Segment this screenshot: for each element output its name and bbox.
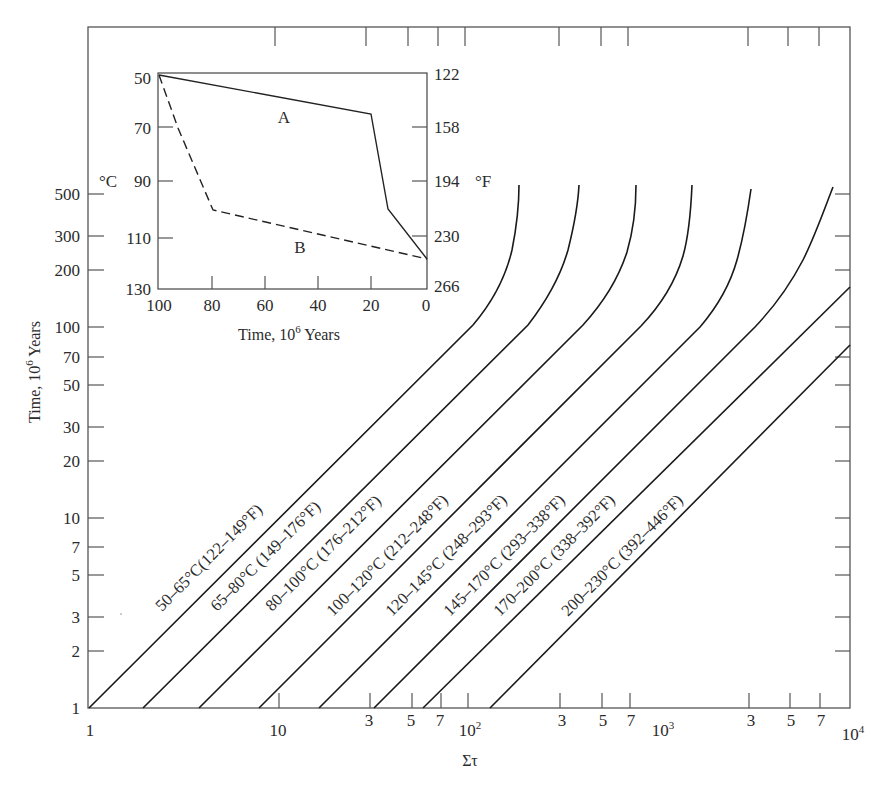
chart-canvas: 50–65°C(122–149°F) 65–80°C (149–176°F) 8… xyxy=(0,0,883,789)
svg-text:20: 20 xyxy=(63,452,80,471)
svg-text:3: 3 xyxy=(747,711,756,730)
svg-text:70: 70 xyxy=(63,348,80,367)
svg-text:50: 50 xyxy=(134,69,151,88)
svg-text:7: 7 xyxy=(627,711,636,730)
curve-145-170C xyxy=(374,187,833,708)
svg-text:60: 60 xyxy=(257,296,274,315)
svg-text:104: 104 xyxy=(842,723,865,744)
svg-text:194: 194 xyxy=(434,172,460,191)
curve-170-200C xyxy=(423,287,850,708)
svg-text:300: 300 xyxy=(55,227,81,246)
svg-text:7: 7 xyxy=(436,711,445,730)
svg-text:70: 70 xyxy=(134,119,151,138)
svg-text:90: 90 xyxy=(134,172,151,191)
svg-text:80: 80 xyxy=(204,296,221,315)
inset-label-a: A xyxy=(278,108,291,127)
svg-text:122: 122 xyxy=(434,65,460,84)
svg-text:7: 7 xyxy=(817,711,826,730)
svg-text:3: 3 xyxy=(365,711,374,730)
svg-text:110: 110 xyxy=(126,229,151,248)
svg-text:20: 20 xyxy=(363,296,380,315)
svg-text:5: 5 xyxy=(599,711,608,730)
svg-text:5: 5 xyxy=(787,711,796,730)
svg-text:500: 500 xyxy=(55,185,81,204)
svg-text:10: 10 xyxy=(270,721,287,740)
svg-text:50: 50 xyxy=(63,376,80,395)
inset-right-unit: °F xyxy=(475,172,491,191)
svg-text:100: 100 xyxy=(146,296,172,315)
x-axis-title: Στ xyxy=(462,752,478,769)
y-axis-title: Time, 106 Years xyxy=(23,321,43,423)
svg-text:2: 2 xyxy=(72,642,81,661)
top-axis-ticks xyxy=(275,27,819,46)
svg-text:266: 266 xyxy=(434,277,460,296)
svg-text:1: 1 xyxy=(86,721,95,740)
inset-label-b: B xyxy=(294,238,305,257)
svg-text:158: 158 xyxy=(434,118,460,137)
svg-text:30: 30 xyxy=(63,418,80,437)
svg-text:1: 1 xyxy=(72,699,81,718)
svg-text:100: 100 xyxy=(55,318,81,337)
inset-chart: A B 50 70 90 110 130 °C 122 158 194 230 … xyxy=(99,65,491,343)
inset-left-unit: °C xyxy=(99,172,117,191)
curve-label-200-230C: 200–230°C (392–446°F) xyxy=(557,490,686,619)
x-tick-labels: 1 10 3 5 7 102 3 5 7 103 3 5 7 104 xyxy=(86,711,865,744)
svg-text:103: 103 xyxy=(652,719,675,740)
y-axis-ticks xyxy=(88,194,104,651)
y-tick-labels: 1 2 3 5 7 10 20 30 50 70 100 200 300 500 xyxy=(55,185,81,718)
svg-text:230: 230 xyxy=(434,227,460,246)
svg-text:3: 3 xyxy=(558,711,567,730)
inset-x-axis-title: Time, 106 Years xyxy=(238,323,340,343)
svg-text:102: 102 xyxy=(459,719,482,740)
curve-labels: 50–65°C(122–149°F) 65–80°C (149–176°F) 8… xyxy=(151,490,686,619)
svg-text:40: 40 xyxy=(310,296,327,315)
svg-text:5: 5 xyxy=(72,566,81,585)
svg-text:7: 7 xyxy=(72,538,81,557)
right-axis-ticks xyxy=(835,194,850,651)
svg-text:10: 10 xyxy=(63,509,80,528)
svg-text:200: 200 xyxy=(55,261,81,280)
speck xyxy=(120,613,122,615)
svg-text:3: 3 xyxy=(72,608,81,627)
x-axis-ticks xyxy=(279,693,820,708)
svg-text:0: 0 xyxy=(422,296,431,315)
svg-text:5: 5 xyxy=(407,711,416,730)
